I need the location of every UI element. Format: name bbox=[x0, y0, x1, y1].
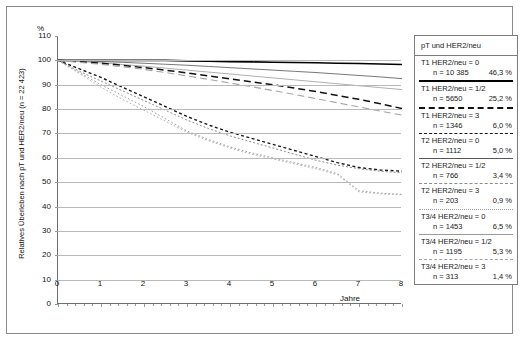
legend-item-label: T2 HER2/neu = 3 bbox=[421, 186, 512, 196]
y-tick-40: 40 bbox=[27, 203, 51, 211]
x-tick-7: 7 bbox=[356, 279, 360, 288]
x-tick-5: 5 bbox=[270, 279, 274, 288]
legend-item-percent: 1,4 % bbox=[493, 272, 512, 282]
x-axis-minor-tick bbox=[385, 304, 386, 306]
x-axis-tick-mark bbox=[316, 304, 317, 307]
legend-item[interactable]: T3/4 HER2/neu = 0n = 14536,5 % bbox=[415, 210, 517, 234]
gridline-50 bbox=[58, 182, 401, 183]
legend-item-percent: 5,3 % bbox=[493, 247, 512, 257]
legend-item-label: T2 HER2/neu = 0 bbox=[421, 136, 512, 146]
y-axis-tick-mark bbox=[55, 85, 58, 86]
legend-item-percent: 5,0 % bbox=[493, 146, 512, 156]
x-axis-tick-mark bbox=[273, 304, 274, 307]
legend-item[interactable]: T3/4 HER2/neu = 3n = 3131,4 % bbox=[415, 260, 517, 284]
x-axis-minor-tick bbox=[178, 304, 179, 306]
x-axis-minor-tick bbox=[333, 304, 334, 306]
y-axis-tick-mark bbox=[55, 255, 58, 256]
y-axis-tick-mark bbox=[55, 182, 58, 183]
legend-item-percent: 0,9 % bbox=[493, 196, 512, 206]
y-axis-tick-mark bbox=[55, 36, 58, 37]
legend-item[interactable]: T2 HER2/neu = 1/2n = 7663,4 % bbox=[415, 159, 517, 183]
gridline-90 bbox=[58, 85, 401, 86]
y-axis-tick-labels: 1101009080706050403020100 bbox=[25, 7, 51, 342]
y-axis-tick-mark bbox=[55, 231, 58, 232]
x-axis-minor-tick bbox=[170, 304, 171, 306]
x-axis-minor-tick bbox=[135, 304, 136, 306]
x-axis-title: Jahre bbox=[340, 294, 360, 303]
x-axis-minor-tick bbox=[368, 304, 369, 306]
legend-item[interactable]: T2 HER2/neu = 0n = 11125,0 % bbox=[415, 134, 517, 158]
x-axis-tick-mark bbox=[230, 304, 231, 307]
x-tick-3: 3 bbox=[184, 279, 188, 288]
chart-frame: % Relatives Überleben nach pT und HER2/n… bbox=[6, 6, 513, 334]
x-axis-minor-tick bbox=[282, 304, 283, 306]
x-axis-minor-tick bbox=[342, 304, 343, 306]
legend-item-label: T3/4 HER2/neu = 3 bbox=[421, 262, 512, 272]
x-axis-minor-tick bbox=[118, 304, 119, 306]
x-axis-minor-tick bbox=[221, 304, 222, 306]
survival-curves bbox=[58, 36, 402, 304]
x-axis-minor-tick bbox=[350, 304, 351, 306]
legend: pT und HER2/neu T1 HER2/neu = 0n = 10 38… bbox=[414, 35, 518, 285]
gridline-30 bbox=[58, 231, 401, 232]
x-axis-minor-tick bbox=[196, 304, 197, 306]
y-axis-tick-mark bbox=[55, 109, 58, 110]
x-axis-minor-tick bbox=[110, 304, 111, 306]
x-tick-2: 2 bbox=[141, 279, 145, 288]
legend-item-label: T2 HER2/neu = 1/2 bbox=[421, 161, 512, 171]
x-axis-minor-tick bbox=[92, 304, 93, 306]
legend-item[interactable]: T1 HER2/neu = 1/2n = 565025,2 % bbox=[415, 82, 517, 106]
gridline-60 bbox=[58, 158, 401, 159]
x-axis-minor-tick bbox=[213, 304, 214, 306]
legend-item[interactable]: T1 HER2/neu = 0n = 10 38546,3 % bbox=[415, 56, 517, 80]
legend-item-percent: 46,3 % bbox=[489, 68, 512, 78]
y-tick-110: 110 bbox=[27, 32, 51, 40]
legend-item-label: T3/4 HER2/neu = 1/2 bbox=[421, 237, 512, 247]
legend-title: pT und HER2/neu bbox=[415, 36, 517, 56]
legend-item[interactable]: T3/4 HER2/neu = 1/2n = 11955,3 % bbox=[415, 235, 517, 259]
legend-item-count: n = 1112 bbox=[433, 146, 461, 156]
x-tick-8: 8 bbox=[399, 279, 403, 288]
legend-item-count: n = 10 385 bbox=[433, 68, 469, 78]
x-axis-minor-tick bbox=[84, 304, 85, 306]
legend-item-count: n = 1195 bbox=[433, 247, 462, 257]
y-tick-30: 30 bbox=[27, 227, 51, 235]
legend-item[interactable]: T1 HER2/neu = 3n = 13466,0 % bbox=[415, 109, 517, 133]
y-axis-tick-mark bbox=[55, 207, 58, 208]
curve-t1-her2-neu-3 bbox=[58, 60, 402, 171]
x-axis-minor-tick bbox=[264, 304, 265, 306]
x-axis-minor-tick bbox=[153, 304, 154, 306]
x-axis-tick-mark bbox=[402, 304, 403, 307]
legend-item-count: n = 313 bbox=[433, 272, 458, 282]
gridline-80 bbox=[58, 109, 401, 110]
legend-item[interactable]: T2 HER2/neu = 3n = 2030,9 % bbox=[415, 184, 517, 208]
legend-item-label: T1 HER2/neu = 1/2 bbox=[421, 84, 512, 94]
plot-area bbox=[57, 36, 401, 304]
legend-item-percent: 6,5 % bbox=[493, 222, 512, 232]
gridline-100 bbox=[58, 60, 401, 61]
x-axis-tick-mark bbox=[359, 304, 360, 307]
y-axis-tick-mark bbox=[55, 133, 58, 134]
legend-item-count: n = 203 bbox=[433, 196, 458, 206]
x-axis-minor-tick bbox=[325, 304, 326, 306]
x-axis-tick-mark bbox=[187, 304, 188, 307]
x-tick-6: 6 bbox=[313, 279, 317, 288]
x-axis-minor-tick bbox=[204, 304, 205, 306]
y-tick-70: 70 bbox=[27, 129, 51, 137]
x-axis-minor-tick bbox=[307, 304, 308, 306]
gridline-70 bbox=[58, 133, 401, 134]
legend-item-label: T3/4 HER2/neu = 0 bbox=[421, 212, 512, 222]
legend-item-label: T1 HER2/neu = 0 bbox=[421, 58, 512, 68]
x-axis-minor-tick bbox=[256, 304, 257, 306]
y-axis-tick-mark bbox=[55, 158, 58, 159]
gridline-20 bbox=[58, 255, 401, 256]
y-tick-90: 90 bbox=[27, 81, 51, 89]
curve-t3-4-her2-neu-1-2 bbox=[58, 60, 402, 115]
x-axis-minor-tick bbox=[161, 304, 162, 306]
y-tick-80: 80 bbox=[27, 105, 51, 113]
y-tick-100: 100 bbox=[27, 56, 51, 64]
legend-item-label: T1 HER2/neu = 3 bbox=[421, 111, 512, 121]
y-tick-60: 60 bbox=[27, 154, 51, 162]
curve-t2-her2-neu-3 bbox=[58, 60, 402, 194]
x-axis-minor-tick bbox=[239, 304, 240, 306]
